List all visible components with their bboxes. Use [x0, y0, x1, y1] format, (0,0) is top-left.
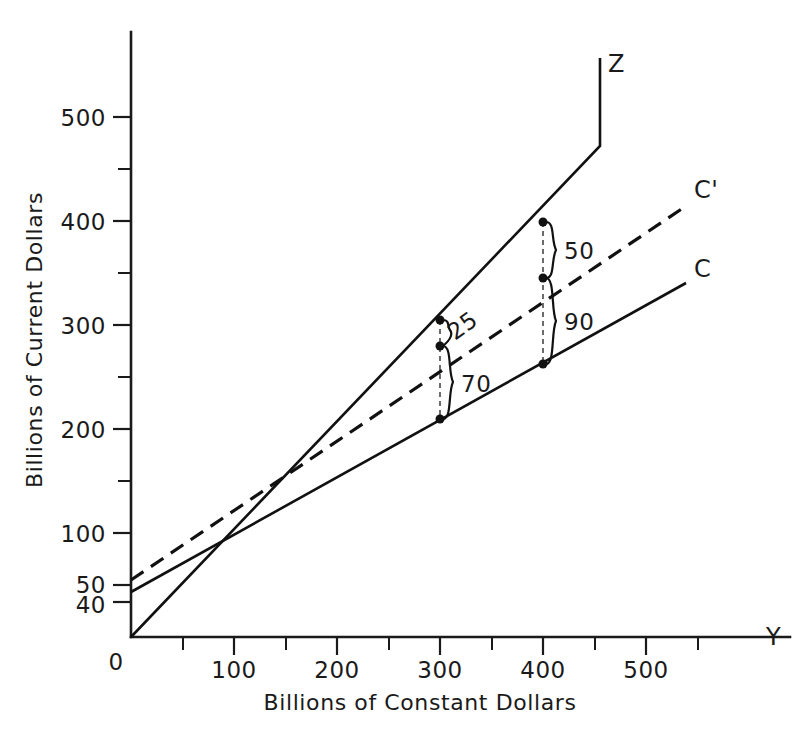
chart-plot-area: 500 400 300 200 100 50 40 0 100 200	[0, 0, 805, 734]
x-tick-label-300: 300	[417, 657, 462, 683]
y-axis-title: Billions of Current Dollars	[22, 192, 47, 488]
annotation-brace-25: 25	[443, 306, 483, 346]
y-tick-label-100: 100	[61, 521, 106, 547]
y-axis-tick-labels: 500 400 300 200 100 50 40	[61, 105, 106, 618]
annotation-brace-50: 50	[546, 222, 594, 278]
x-tick-label-200: 200	[314, 657, 359, 683]
annotation-brace-70: 70	[443, 346, 491, 419]
x-axis-ticks	[183, 637, 698, 655]
y-tick-label-500: 500	[61, 105, 106, 131]
x-tick-label-400: 400	[520, 657, 565, 683]
series-c: C	[131, 255, 711, 592]
annotation-label-70: 70	[461, 371, 491, 397]
series-c-prime: C'	[131, 176, 718, 580]
y-tick-label-200: 200	[61, 417, 106, 443]
x-tick-label-100: 100	[211, 657, 256, 683]
origin-label: 0	[108, 649, 123, 675]
series-label-c: C	[694, 255, 711, 283]
series-z: Z	[131, 50, 625, 637]
x-axis-symbol-label: Y	[765, 623, 781, 651]
y-tick-label-400: 400	[61, 209, 106, 235]
x-axis-title: Billions of Constant Dollars	[264, 690, 577, 715]
annotation-label-50: 50	[564, 238, 594, 264]
series-label-c-prime: C'	[694, 176, 718, 204]
chart-figure: 500 400 300 200 100 50 40 0 100 200	[0, 0, 805, 734]
y-tick-label-300: 300	[61, 313, 106, 339]
annotation-brace-90: 90	[546, 278, 594, 364]
y-tick-label-40: 40	[76, 592, 106, 618]
y-axis-ticks	[113, 117, 131, 602]
x-axis-tick-labels: 0 100 200 300 400 500	[108, 649, 668, 683]
x-tick-label-500: 500	[623, 657, 668, 683]
series-label-z: Z	[608, 50, 625, 78]
annotation-label-90: 90	[564, 309, 594, 335]
